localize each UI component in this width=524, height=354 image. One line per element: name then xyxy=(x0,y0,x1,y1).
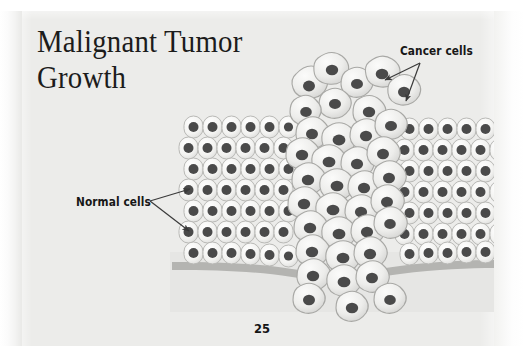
normal-epithelium-left xyxy=(179,116,298,267)
normal-epithelium-right xyxy=(395,118,509,265)
label-cancer-cells: Cancer cells xyxy=(400,44,473,58)
label-normal-cells: Normal cells xyxy=(76,195,151,209)
book-spine-gutter xyxy=(0,0,22,354)
page-number: 25 xyxy=(0,322,524,336)
book-page: Malignant Tumor Growth Cancer cells Norm… xyxy=(0,0,524,354)
page-bottom-edge xyxy=(0,346,524,354)
page-title: Malignant Tumor Growth xyxy=(37,24,270,96)
page-right-edge xyxy=(494,0,524,354)
normal-arrow-lower xyxy=(150,201,189,231)
page-top-edge xyxy=(0,0,524,11)
